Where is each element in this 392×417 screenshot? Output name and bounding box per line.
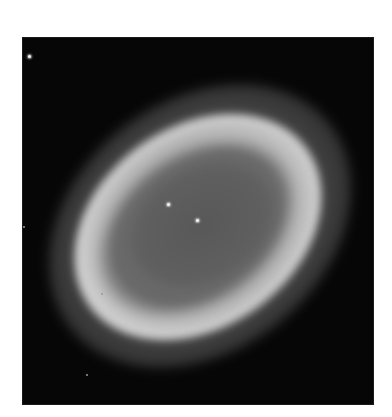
central-star	[196, 219, 199, 222]
field-star-top-left	[28, 55, 31, 58]
field-star-lower-left	[86, 374, 88, 376]
nebula-photo	[22, 37, 374, 405]
inner-star	[167, 203, 170, 206]
field-star-left-edge	[23, 226, 25, 228]
field-star-ring-left	[101, 293, 103, 295]
